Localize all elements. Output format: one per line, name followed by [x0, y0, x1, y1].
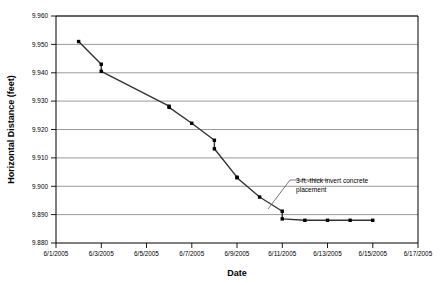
- data-point-marker: [326, 219, 329, 222]
- y-tick-label: 9.880: [32, 239, 48, 246]
- y-tick-label: 9.890: [32, 211, 48, 218]
- annotation-label-line1: 3-ft.-thick invert concrete: [296, 177, 369, 184]
- y-axis-ticks: [51, 16, 56, 243]
- y-tick-label: 9.950: [32, 41, 48, 48]
- x-tick-label: 6/1/2005: [44, 250, 69, 257]
- data-point-marker: [100, 70, 103, 73]
- x-tick-label: 6/15/2005: [359, 250, 388, 257]
- x-tick-label: 6/5/2005: [134, 250, 159, 257]
- data-point-marker: [348, 219, 351, 222]
- data-point-marker: [235, 176, 238, 179]
- data-point-marker: [258, 195, 261, 198]
- x-tick-label: 6/13/2005: [313, 250, 342, 257]
- data-point-marker: [213, 147, 216, 150]
- y-tick-label: 9.960: [32, 12, 48, 19]
- y-tick-label: 9.930: [32, 97, 48, 104]
- data-point-marker: [213, 139, 216, 142]
- data-point-marker: [77, 40, 80, 43]
- data-point-marker: [371, 219, 374, 222]
- y-tick-label: 9.920: [32, 126, 48, 133]
- y-tick-label: 9.900: [32, 183, 48, 190]
- x-tick-label: 6/7/2005: [179, 250, 204, 257]
- x-axis-ticks: [56, 243, 418, 248]
- data-point-marker: [303, 219, 306, 222]
- x-tick-label: 6/9/2005: [225, 250, 250, 257]
- y-tick-label: 9.940: [32, 69, 48, 76]
- data-point-marker: [281, 210, 284, 213]
- x-tick-label: 6/11/2005: [268, 250, 296, 257]
- data-point-marker: [100, 63, 103, 66]
- chart-figure: 9.960 9.950 9.940 9.930 9.920 9.910 9.90…: [0, 0, 447, 285]
- annotation-label-line2: placement: [296, 186, 327, 194]
- line-chart: 9.960 9.950 9.940 9.930 9.920 9.910 9.90…: [0, 0, 447, 285]
- y-axis-title: Horizontal Distance (feet): [6, 75, 16, 184]
- data-point-marker: [190, 122, 193, 125]
- x-tick-label: 6/17/2005: [404, 250, 433, 257]
- y-tick-label: 9.910: [32, 154, 48, 161]
- x-axis-title: Date: [227, 268, 247, 278]
- data-point-marker: [167, 106, 170, 109]
- data-point-marker: [281, 217, 284, 220]
- x-tick-label: 6/3/2005: [89, 250, 114, 257]
